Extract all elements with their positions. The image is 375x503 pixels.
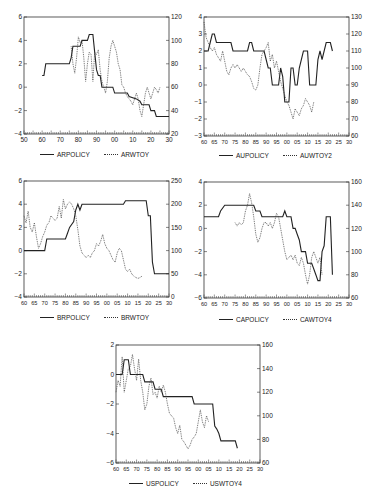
x-tick-label: 30 <box>346 301 352 307</box>
x-tick-label: 10 <box>304 139 310 145</box>
y-left-tick-label: 2 <box>110 341 114 348</box>
legend-item-capolicy: CAPOLICY <box>219 316 269 323</box>
x-tick-label: 30 <box>257 466 263 472</box>
x-tick-label: 00 <box>111 136 119 143</box>
y-right-tick-label: 160 <box>351 178 362 185</box>
x-tick-label: 00 <box>284 139 290 145</box>
x-tick-label: 20 <box>236 466 242 472</box>
series-line-cawtoy4 <box>235 194 322 284</box>
y-right-tick-label: 120 <box>262 388 273 395</box>
x-tick-label: 90 <box>175 466 181 472</box>
y-right-tick-label: 120 <box>351 30 362 37</box>
y-right-tick-label: 80 <box>351 98 359 105</box>
x-tick-label: 75 <box>52 300 58 306</box>
legend-item-brpolicy: BRPOLICY <box>40 314 90 321</box>
x-tick-label: 80 <box>154 466 160 472</box>
x-tick-label: 15 <box>315 139 321 145</box>
x-tick-label: 60 <box>113 466 119 472</box>
y-right-tick-label: 100 <box>351 248 362 255</box>
series-line-arpolicy <box>42 35 169 117</box>
x-tick-label: 85 <box>73 300 79 306</box>
series-line-auwtoy2 <box>204 22 314 119</box>
y-right-tick-label: 80 <box>262 436 270 443</box>
y-left-tick-label: −4 <box>107 430 115 437</box>
legend-au: AUPOLICY AUWTOY2 <box>219 152 332 159</box>
y-right-tick-label: 100 <box>171 247 182 254</box>
y-left-tick-label: 4 <box>18 37 22 44</box>
x-tick-label: 25 <box>336 139 342 145</box>
x-tick-label: 15 <box>315 301 321 307</box>
y-left-tick-label: 4 <box>18 200 22 207</box>
chart-svg-us: 606570758085909500051015202530−6−4−20260… <box>92 330 282 480</box>
x-tick-label: 70 <box>42 300 48 306</box>
y-left-tick-label: 0 <box>198 81 202 88</box>
y-left-tick-label: 6 <box>18 13 22 20</box>
plot-frame <box>116 345 260 463</box>
y-left-tick-label: 4 <box>198 178 202 185</box>
legend-item-auwtoy2: AUWTOY2 <box>283 152 332 159</box>
x-tick-label: 15 <box>226 466 232 472</box>
x-tick-label: 70 <box>222 139 228 145</box>
x-tick-label: 90 <box>263 139 269 145</box>
y-right-tick-label: 140 <box>351 201 362 208</box>
y-left-tick-label: 6 <box>18 177 22 184</box>
x-tick-label: 60 <box>21 300 27 306</box>
y-left-tick-label: 2 <box>18 60 22 67</box>
x-tick-label: 10 <box>124 300 130 306</box>
y-right-tick-label: 120 <box>171 13 182 20</box>
y-right-tick-label: 140 <box>262 365 273 372</box>
x-tick-label: 25 <box>156 300 162 306</box>
x-tick-label: 95 <box>93 300 99 306</box>
legend-item-uswtoy4: USWTOY4 <box>193 480 242 487</box>
dotted-line-swatch <box>283 155 297 156</box>
x-tick-label: 90 <box>263 301 269 307</box>
legend-us: USPOLICY USWTOY4 <box>129 480 242 487</box>
x-tick-label: 65 <box>123 466 129 472</box>
x-tick-label: 95 <box>185 466 191 472</box>
y-right-tick-label: 60 <box>351 132 359 139</box>
dotted-line-swatch <box>104 317 118 318</box>
y-left-tick-label: −2 <box>107 400 115 407</box>
y-left-tick-label: 0 <box>198 225 202 232</box>
x-tick-label: 80 <box>75 136 83 143</box>
y-right-tick-label: 110 <box>351 47 362 54</box>
y-right-tick-label: 130 <box>351 13 362 20</box>
x-tick-label: 00 <box>195 466 201 472</box>
y-right-tick-label: 50 <box>171 270 179 277</box>
y-left-tick-label: −1 <box>195 98 203 105</box>
y-right-tick-label: 60 <box>351 294 359 301</box>
x-tick-label: 65 <box>31 300 37 306</box>
y-left-tick-label: −2 <box>15 107 23 114</box>
x-tick-label: 65 <box>211 301 217 307</box>
x-tick-label: 70 <box>133 466 139 472</box>
y-left-tick-label: 2 <box>198 47 202 54</box>
solid-line-swatch <box>40 154 54 155</box>
chart-svg-au: 606570758085909500051015202530−3−2−10123… <box>185 0 375 150</box>
x-tick-label: 10 <box>304 301 310 307</box>
y-right-tick-label: 60 <box>171 83 179 90</box>
dotted-line-swatch <box>104 154 118 155</box>
y-left-tick-label: −4 <box>195 271 203 278</box>
series-line-uspolicy <box>116 360 237 449</box>
legend-ar: ARPOLICY ARWTOY <box>40 151 149 158</box>
chart-panel-ca: 606570758085909500051015202530−6−4−20246… <box>185 165 375 330</box>
y-left-tick-label: −6 <box>195 294 203 301</box>
dotted-line-swatch <box>283 319 297 320</box>
x-tick-label: 80 <box>242 139 248 145</box>
x-tick-label: 85 <box>164 466 170 472</box>
y-right-tick-label: 90 <box>351 81 359 88</box>
chart-panel-au: 606570758085909500051015202530−3−2−10123… <box>185 0 375 165</box>
x-tick-label: 05 <box>294 301 300 307</box>
x-tick-label: 95 <box>273 301 279 307</box>
chart-svg-ar: 506070809000102030−4−2024620406080100120 <box>0 0 190 150</box>
x-tick-label: 10 <box>216 466 222 472</box>
x-tick-label: 20 <box>147 136 155 143</box>
solid-line-swatch <box>129 483 143 484</box>
y-right-tick-label: 150 <box>171 224 182 231</box>
x-tick-label: 85 <box>253 301 259 307</box>
x-tick-label: 00 <box>284 301 290 307</box>
y-left-tick-label: 3 <box>198 30 202 37</box>
dotted-line-swatch <box>193 483 207 484</box>
y-right-tick-label: 80 <box>351 271 359 278</box>
plot-frame <box>204 17 349 136</box>
